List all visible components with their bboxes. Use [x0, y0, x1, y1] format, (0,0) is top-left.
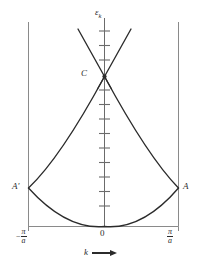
point-c-marker — [102, 74, 106, 78]
x-axis-label-symbol: k — [84, 247, 88, 257]
pi-numerator-right: π — [167, 228, 173, 236]
x-tick-label-origin: 0 — [100, 229, 105, 238]
a-denominator-right: a — [167, 236, 173, 245]
lower-band-curve — [29, 188, 179, 227]
figure-caption — [2, 266, 82, 274]
point-label-a-prime: A′ — [12, 182, 19, 191]
a-denominator-left: a — [21, 236, 27, 245]
pi-over-a-fraction-left: πa — [21, 228, 27, 246]
pi-over-a-fraction-right: πa — [167, 228, 173, 246]
asymptote-stub-left — [98, 77, 105, 90]
point-label-c: C — [81, 69, 87, 78]
asymptote-stub-right — [105, 77, 112, 90]
point-label-a: A — [183, 182, 189, 191]
upper-band-curve — [29, 77, 179, 189]
band-structure-figure: εk C A A′ −πa 0 πa k — [0, 0, 202, 274]
right-arrow-icon — [92, 250, 118, 256]
x-axis-label: k — [84, 248, 118, 257]
y-axis-label: εk — [95, 8, 101, 19]
y-axis-label-subscript: k — [99, 12, 102, 19]
pi-numerator-left: π — [21, 228, 27, 236]
asymptote-line-right — [105, 29, 132, 77]
x-tick-label-right: πa — [167, 228, 173, 246]
x-tick-label-left: −πa — [16, 228, 27, 246]
